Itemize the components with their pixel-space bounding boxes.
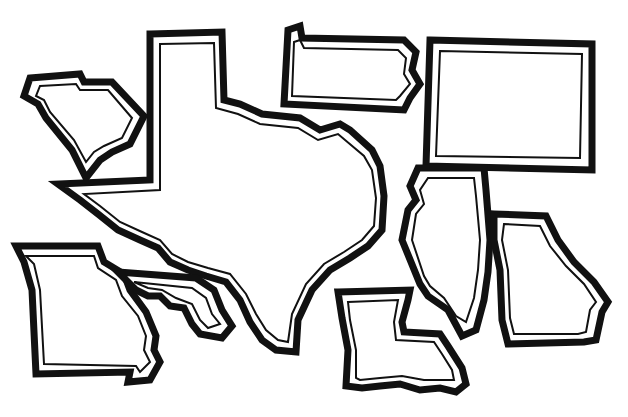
pennsylvania-shape xyxy=(284,26,420,110)
missouri-shape xyxy=(16,246,160,382)
illinois-shape xyxy=(402,168,490,336)
georgia-shape xyxy=(494,214,608,344)
colorado-shape xyxy=(426,40,592,170)
state-outlines-illustration xyxy=(0,0,628,417)
south-carolina-shape xyxy=(24,74,144,178)
